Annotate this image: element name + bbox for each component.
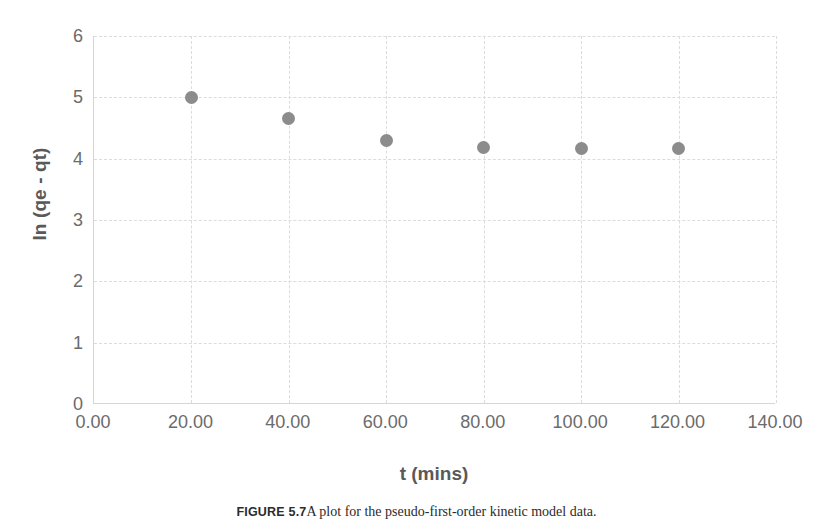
x-axis-tick-label: 140.00: [730, 412, 820, 433]
data-point-marker: [575, 142, 588, 155]
y-axis-tick-labels: 0123456: [33, 36, 83, 404]
gridline-horizontal: [94, 281, 775, 282]
scatter-chart: ln (qe - qt) 0123456 0.0020.0040.0060.00…: [0, 0, 833, 460]
x-axis-tick-label: 120.00: [633, 412, 723, 433]
x-axis-tick-label: 0.00: [48, 412, 138, 433]
figure-caption: FIGURE 5.7A plot for the pseudo-first-or…: [0, 504, 833, 519]
x-axis-tick-label: 40.00: [243, 412, 333, 433]
gridline-vertical: [679, 36, 680, 403]
data-point-marker: [185, 91, 198, 104]
x-axis-tick-label: 20.00: [145, 412, 235, 433]
data-point-marker: [672, 142, 685, 155]
gridline-vertical: [776, 36, 777, 403]
gridline-horizontal: [94, 36, 775, 37]
y-axis-tick-label: 6: [43, 26, 83, 47]
y-axis-tick-label: 3: [43, 210, 83, 231]
figure-caption-text: A plot for the pseudo-first-order kineti…: [307, 504, 597, 519]
data-point-marker: [380, 134, 393, 147]
x-axis-tick-label: 100.00: [535, 412, 625, 433]
x-axis-tick-label: 60.00: [340, 412, 430, 433]
figure-root: ln (qe - qt) 0123456 0.0020.0040.0060.00…: [0, 0, 833, 519]
gridline-vertical: [386, 36, 387, 403]
x-axis-tick-labels: 0.0020.0040.0060.0080.00100.00120.00140.…: [93, 412, 775, 442]
plot-area: [93, 36, 775, 404]
y-axis-tick-label: 5: [43, 87, 83, 108]
gridline-vertical: [289, 36, 290, 403]
gridline-vertical: [484, 36, 485, 403]
x-axis-title: t (mins): [93, 463, 775, 485]
y-axis-tick-label: 4: [43, 148, 83, 169]
gridline-vertical: [581, 36, 582, 403]
data-point-marker: [477, 141, 490, 154]
gridline-horizontal: [94, 159, 775, 160]
y-axis-tick-label: 2: [43, 271, 83, 292]
gridline-horizontal: [94, 220, 775, 221]
data-point-marker: [282, 112, 295, 125]
y-axis-tick-label: 1: [43, 332, 83, 353]
x-axis-tick-label: 80.00: [438, 412, 528, 433]
figure-caption-label: FIGURE 5.7: [236, 505, 306, 519]
gridline-horizontal: [94, 343, 775, 344]
